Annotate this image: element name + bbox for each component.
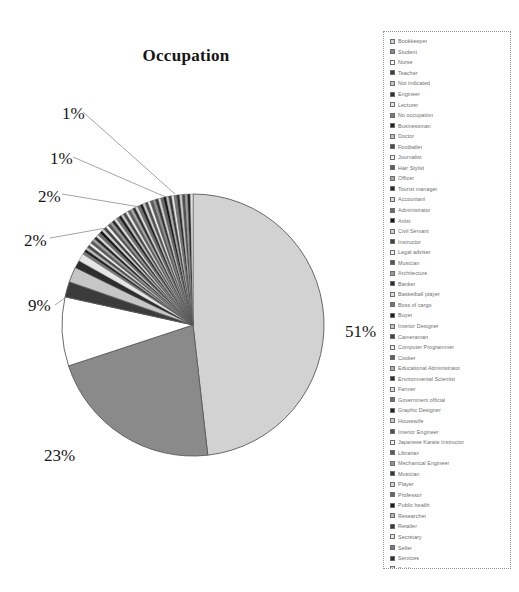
legend-item[interactable]: Instructor (388, 236, 508, 247)
legend-swatch-icon (390, 250, 395, 255)
legend-item-label: Musician (398, 260, 420, 266)
leader-line (73, 157, 168, 198)
legend-item[interactable]: Educational Administrator (388, 363, 508, 374)
legend-item-label: Legal adviser (398, 249, 431, 255)
legend-swatch-icon (390, 345, 395, 350)
legend-item-label: Seller (398, 545, 412, 551)
legend-item[interactable]: Public health (388, 500, 508, 511)
legend-item-label: No occupation (398, 112, 433, 118)
legend-item-label: Buyer (398, 312, 412, 318)
legend-item[interactable]: Artist (388, 215, 508, 226)
legend-item[interactable]: Engineer (388, 89, 508, 100)
legend-item[interactable]: Doctor (388, 131, 508, 142)
legend-item-label: Artist (398, 218, 411, 224)
legend-swatch-icon (390, 92, 395, 97)
legend-item[interactable]: Student (388, 47, 508, 58)
legend-item[interactable]: Computer Programmer (388, 342, 508, 353)
legend-item-label: Accountant (398, 196, 425, 202)
legend-item[interactable]: Researcher (388, 511, 508, 522)
legend-swatch-icon (390, 123, 395, 128)
legend-item[interactable]: Tourist manager (388, 184, 508, 195)
legend-item[interactable]: Seller (388, 542, 508, 553)
legend-item[interactable]: Musician (388, 468, 508, 479)
legend-swatch-icon (390, 334, 395, 339)
legend-item[interactable]: Interior Designer (388, 321, 508, 332)
legend-item[interactable]: Journalist (388, 152, 508, 163)
pct-label-1b: 1% (50, 150, 73, 167)
legend-item[interactable]: Retailer (388, 521, 508, 532)
leader-line (83, 112, 175, 194)
legend-item[interactable]: Boss of cargo (388, 300, 508, 311)
legend-item-label: Public health (398, 502, 430, 508)
legend-item[interactable]: Architecture (388, 268, 508, 279)
legend-item[interactable]: Librarian (388, 447, 508, 458)
legend-swatch-icon (390, 503, 395, 508)
legend-item[interactable]: Officer (388, 173, 508, 184)
legend-item-label: Retailer (398, 523, 417, 529)
legend-swatch-icon (390, 461, 395, 466)
legend-item-label: Cameraman (398, 334, 428, 340)
legend-item[interactable]: Teacher (388, 68, 508, 79)
legend-item[interactable]: Administrator (388, 205, 508, 216)
legend-item[interactable]: Housewife (388, 416, 508, 427)
legend-item[interactable]: No occupation (388, 110, 508, 121)
legend-swatch-icon (390, 281, 395, 286)
pie-slice[interactable] (193, 194, 324, 455)
legend-item-label: Educational Administrator (398, 365, 460, 371)
legend-item-label: Government official (398, 397, 445, 403)
legend-swatch-icon (390, 197, 395, 202)
legend-swatch-icon (390, 292, 395, 297)
legend-swatch-icon (390, 144, 395, 149)
legend-item-label: Professor (398, 492, 422, 498)
legend-swatch-icon (390, 545, 395, 550)
legend-item-label: Journalist (398, 154, 422, 160)
legend-swatch-icon (390, 113, 395, 118)
pie-slices-group (62, 194, 324, 456)
legend-item-label: Housewife (398, 418, 424, 424)
legend-item-label: Japanese Karate Instructor (398, 439, 464, 445)
legend-item[interactable]: Government official (388, 395, 508, 406)
legend-item-label: Not indicated (398, 80, 430, 86)
legend-item-label: Mechanical Engineer (398, 460, 449, 466)
legend-swatch-icon (390, 313, 395, 318)
legend-swatch-icon (390, 39, 395, 44)
legend-item[interactable]: Legal adviser (388, 247, 508, 258)
legend-item[interactable]: Musician (388, 257, 508, 268)
legend-swatch-icon (390, 70, 395, 75)
legend-item[interactable]: Hair Stylist (388, 163, 508, 174)
legend-item[interactable]: Bookkeeper (388, 36, 508, 47)
legend-swatch-icon (390, 218, 395, 223)
legend-item[interactable]: Cameraman (388, 331, 508, 342)
legend-swatch-icon (390, 102, 395, 107)
legend-item-label: Farmer (398, 386, 416, 392)
legend-swatch-icon (390, 513, 395, 518)
legend-item-label: Tourist manager (398, 186, 437, 192)
legend-item[interactable]: Footballer (388, 141, 508, 152)
legend-item[interactable]: Interior Engineer (388, 426, 508, 437)
legend-item[interactable]: Businessman (388, 120, 508, 131)
legend-item[interactable]: Cooker (388, 352, 508, 363)
legend-item[interactable]: Buyer (388, 310, 508, 321)
legend-swatch-icon (390, 155, 395, 160)
legend-item[interactable]: Civil Servant (388, 226, 508, 237)
legend-item[interactable]: Soldier (388, 563, 508, 569)
legend-item[interactable]: Japanese Karate Instructor (388, 437, 508, 448)
legend-item[interactable]: Mechanical Engineer (388, 458, 508, 469)
legend-swatch-icon (390, 81, 395, 86)
legend-item[interactable]: Nurse (388, 57, 508, 68)
legend-item[interactable]: Professor (388, 490, 508, 501)
legend-item[interactable]: Environmental Scientist (388, 374, 508, 385)
legend-item[interactable]: Graphic Designer (388, 405, 508, 416)
legend-item[interactable]: Player (388, 479, 508, 490)
legend-item[interactable]: Accountant (388, 194, 508, 205)
legend-item[interactable]: Banker (388, 279, 508, 290)
legend-item[interactable]: Services (388, 553, 508, 564)
legend-swatch-icon (390, 482, 395, 487)
legend-item-label: Cooker (398, 355, 416, 361)
legend-item[interactable]: Farmer (388, 384, 508, 395)
legend-item[interactable]: Basketball player (388, 289, 508, 300)
legend-item-label: Secretary (398, 534, 422, 540)
legend-item[interactable]: Not indicated (388, 78, 508, 89)
legend-item[interactable]: Lecturer (388, 99, 508, 110)
legend-item[interactable]: Secretary (388, 532, 508, 543)
